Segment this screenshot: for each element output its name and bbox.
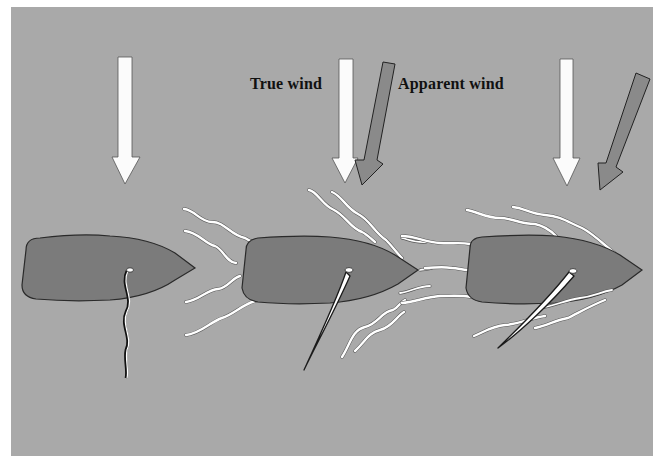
boat-1-group — [22, 57, 195, 378]
true-wind-label: True wind — [250, 75, 322, 93]
apparent-wind-arrow-2 — [355, 62, 395, 185]
true-wind-arrow-2 — [332, 59, 358, 183]
sailing-wind-diagram — [0, 0, 665, 467]
boat-1-mast — [127, 268, 134, 272]
apparent-wind-label: Apparent wind — [398, 75, 504, 93]
true-wind-arrow-3 — [553, 59, 580, 186]
true-wind-arrow-1 — [112, 57, 140, 184]
boat-1-hull — [22, 235, 195, 301]
boat-2-mast — [345, 268, 353, 273]
boat-2-group — [184, 59, 432, 370]
boat-3-mast — [569, 269, 577, 274]
boat-3-group — [402, 59, 650, 348]
apparent-wind-arrow-3 — [598, 73, 650, 190]
